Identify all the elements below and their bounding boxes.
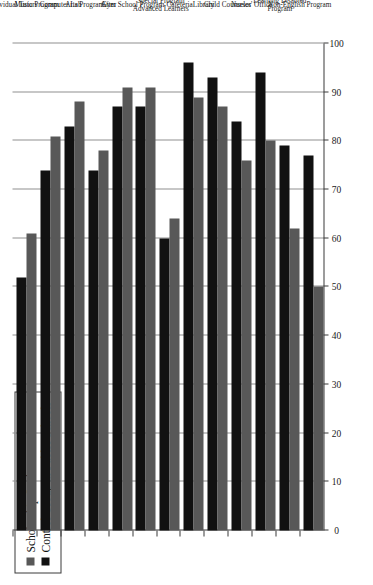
axis-tick-label: 50 <box>327 282 345 292</box>
bar-control-group <box>112 106 122 530</box>
category-tick <box>227 530 228 536</box>
category-tick <box>275 530 276 536</box>
category-tick <box>60 530 61 536</box>
axis-tick-label: 80 <box>327 135 345 145</box>
bar-control-group <box>40 170 50 530</box>
bar-control-group <box>231 121 241 530</box>
axis-tick-label: 20 <box>327 428 345 438</box>
bar-scholarship-students <box>26 233 36 530</box>
bar-control-group <box>159 238 169 530</box>
bar-group <box>60 43 84 530</box>
legend-swatch-black-icon <box>41 557 49 565</box>
bar-group <box>108 43 132 530</box>
axis-tick-label: 0 <box>327 525 345 535</box>
bar-group <box>227 43 251 530</box>
bar-control-group <box>303 155 313 530</box>
bar-control-group <box>135 106 145 530</box>
axis-tick-label: 40 <box>327 330 345 340</box>
category-tick <box>132 530 133 536</box>
bar-scholarship-students <box>145 87 155 530</box>
bar-scholarship-students <box>313 287 323 531</box>
bar-control-group <box>88 170 98 530</box>
bar-scholarship-students <box>50 136 60 530</box>
category-tick <box>203 530 204 536</box>
bar-group <box>275 43 299 530</box>
bar-scholarship-students <box>193 97 203 530</box>
bar-group <box>156 43 180 530</box>
bar-control-group <box>64 126 74 530</box>
axis-tick-label: 100 <box>327 38 345 48</box>
category-tick <box>12 530 13 536</box>
axis-tick-label: 30 <box>327 379 345 389</box>
bar-group <box>179 43 203 530</box>
bar-control-group <box>279 145 289 530</box>
bar-control-group <box>16 277 26 530</box>
axis-tick-label: 10 <box>327 476 345 486</box>
category-tick <box>36 530 37 536</box>
category-label: Individual Tutors <box>0 1 44 9</box>
plot-area: 0102030405060708090100Non-English Progra… <box>12 43 323 530</box>
legend-swatch-gray-icon <box>26 557 34 565</box>
category-tick <box>108 530 109 536</box>
bar-group <box>251 43 275 530</box>
chart-stage: Scholarship Students Control Group in Pu… <box>0 0 373 585</box>
bar-group <box>36 43 60 530</box>
bar-scholarship-students <box>265 140 275 530</box>
category-tick <box>156 530 157 536</box>
category-tick <box>251 530 252 536</box>
bar-group <box>84 43 108 530</box>
bar-scholarship-students <box>122 87 132 530</box>
bar-scholarship-students <box>74 101 84 530</box>
chart-page: Scholarship Students Control Group in Pu… <box>0 0 373 585</box>
bar-group <box>299 43 323 530</box>
category-tick <box>179 530 180 536</box>
category-tick <box>299 530 300 536</box>
category-tick <box>84 530 85 536</box>
bar-scholarship-students <box>289 228 299 530</box>
bar-scholarship-students <box>217 106 227 530</box>
bar-scholarship-students <box>241 160 251 530</box>
axis-tick-label: 90 <box>327 87 345 97</box>
axis-tick-label: 70 <box>327 184 345 194</box>
bar-control-group <box>255 72 265 530</box>
bar-group <box>132 43 156 530</box>
bar-scholarship-students <box>98 150 108 530</box>
axis-tick-label: 60 <box>327 233 345 243</box>
bar-group <box>203 43 227 530</box>
bar-control-group <box>183 62 193 530</box>
bar-control-group <box>207 77 217 530</box>
bar-group <box>12 43 36 530</box>
bar-scholarship-students <box>169 218 179 530</box>
